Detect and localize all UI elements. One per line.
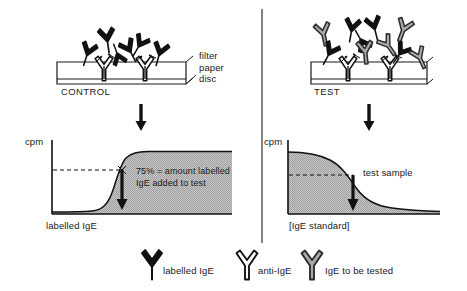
test-unlabelled-ige-2 <box>391 16 415 44</box>
control-disc-edge <box>186 56 193 84</box>
test-disc-body <box>311 62 427 84</box>
legend-label-anti-ige: anti-IgE <box>258 265 292 276</box>
test-labelled-ige-1 <box>342 17 362 43</box>
legend-label-labelled-ige: labelled IgE <box>163 265 214 276</box>
legend-label-ige-to-be-tested: IgE to be tested <box>325 265 393 276</box>
control-chart-annotation: 75% = amount labelled IgE added to test <box>136 166 230 189</box>
legend-antibody-outline-icon <box>237 251 258 280</box>
test-curve-fill <box>288 152 440 214</box>
control-labelled-ige-2 <box>97 27 117 54</box>
figure-canvas: CONTROL filter paper disc TEST cpm label… <box>0 0 467 291</box>
control-chart-x-axis-label: labelled IgE <box>46 220 97 231</box>
filter-paper-disc-callout: filter paper disc <box>199 50 224 85</box>
control-flow-arrow <box>136 104 147 131</box>
test-flow-arrow <box>364 104 375 131</box>
control-disc-label: CONTROL <box>61 86 110 97</box>
test-unlabelled-ige-1 <box>313 21 334 47</box>
test-disc-edge <box>427 57 433 84</box>
test-disc-group <box>311 15 433 84</box>
legend-antibody-filled-icon <box>142 250 162 279</box>
diagram-svg <box>0 0 467 291</box>
legend-antibody-gray-icon <box>302 251 323 280</box>
test-chart-annotation: test sample <box>363 167 413 178</box>
test-chart-x-axis-label: [IgE standard] <box>289 220 350 231</box>
test-labelled-ige-2 <box>364 15 385 42</box>
control-disc-body <box>57 62 186 84</box>
test-chart-y-axis-label: cpm <box>264 136 282 147</box>
filter-paper-leader-line <box>186 75 196 84</box>
control-disc-group <box>57 27 196 84</box>
test-disc-label: TEST <box>314 86 340 97</box>
control-chart-y-axis-label: cpm <box>25 136 43 147</box>
